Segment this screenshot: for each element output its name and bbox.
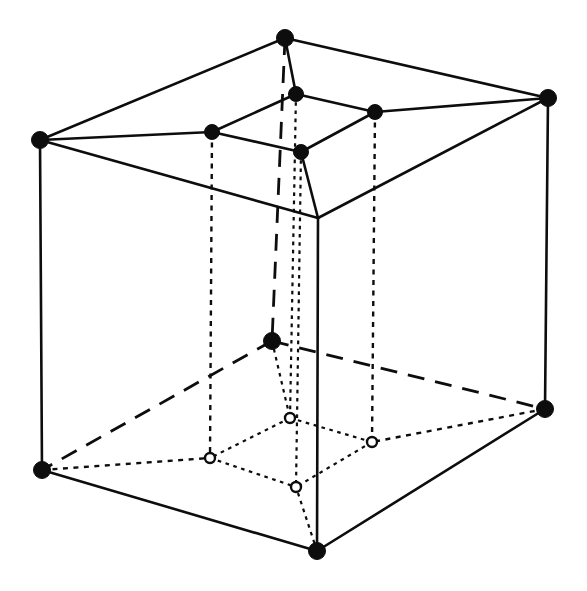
vertex-I_bot_back bbox=[285, 413, 295, 423]
vertex-I_bot_right bbox=[367, 437, 377, 447]
vertex-I_top_front bbox=[294, 145, 309, 160]
figure-canvas: Nested cube (tesseract) projection line … bbox=[0, 0, 587, 591]
nested-cube-diagram bbox=[0, 0, 587, 591]
vertex-O_bot_back bbox=[264, 333, 281, 350]
vertex-O_top_right bbox=[540, 90, 557, 107]
vertex-I_bot_left bbox=[205, 453, 215, 463]
edge-O_top_front-O_bot_front bbox=[317, 218, 318, 551]
vertex-O_top_back bbox=[277, 30, 294, 47]
vertex-O_bot_left bbox=[34, 462, 51, 479]
vertex-I_top_left bbox=[205, 125, 220, 140]
vertex-I_top_right bbox=[368, 105, 383, 120]
vertex-O_bot_front bbox=[309, 543, 326, 560]
vertex-O_bot_right bbox=[537, 401, 554, 418]
vertex-I_bot_front bbox=[291, 482, 301, 492]
vertex-I_top_back bbox=[289, 87, 304, 102]
vertex-O_top_left bbox=[32, 132, 49, 149]
